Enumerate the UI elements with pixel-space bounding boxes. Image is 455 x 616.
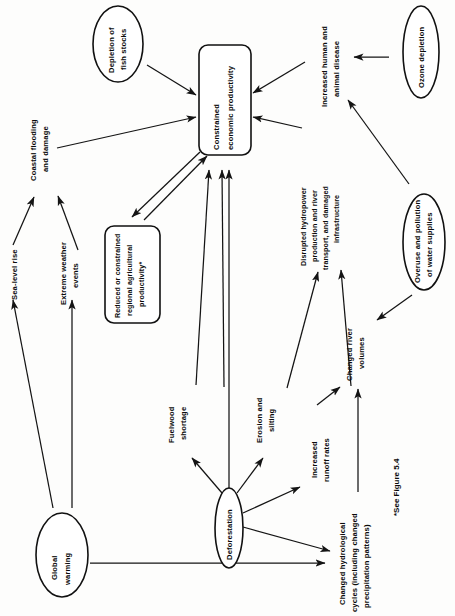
node-changed-river-volumes[interactable]: Changed river volumes (345, 328, 366, 381)
edge-runoff-rates-to-river-volumes (317, 387, 340, 405)
node-label-depletion-of-fish-stocks-line1: Depletion of (107, 27, 116, 73)
figure-footnote-text: *See Figure 5.4 (392, 458, 401, 516)
figure-footnote: *See Figure 5.4 (392, 458, 401, 516)
node-label-extreme-weather-line2: events (71, 263, 80, 288)
node-reduced-regional-agricultural-productivity[interactable]: Reduced or constrained regional agricult… (105, 226, 160, 323)
node-label-sea-level-rise-line1: Sea-level rise (10, 249, 19, 300)
edge-global-warming-to-sea-level-rise (13, 300, 53, 508)
node-label-overuse-water-supplies-line2: of water supplies (425, 212, 434, 277)
edge-agricultural-productivity-to-economic-productivity (144, 156, 207, 220)
edge-disease-to-economic-productivity (253, 62, 305, 93)
edge-deforestation-to-runoff-rates (243, 487, 300, 513)
node-label-hydropower-line1: Disrupted hydropower (300, 187, 308, 266)
node-label-agricultural-productivity-line3: productivity* (138, 262, 146, 307)
causal-diagram-figure: Constrained economic productivity Deplet… (0, 0, 455, 616)
node-label-disease-line1: Increased human and (320, 26, 329, 107)
node-shape-overuse-and-pollution-of-water-supplies (403, 194, 445, 290)
edge-water-supplies-to-disease (348, 100, 409, 184)
node-label-fuelwood-shortage-line2: shortage (179, 407, 188, 440)
node-label-constrained-economic-productivity-line2: economic productivity (226, 65, 235, 150)
node-label-coastal-flooding-line2: and damage (41, 126, 50, 172)
node-coastal-flooding-and-damage[interactable]: Coastal flooding and damage (29, 119, 50, 181)
node-label-changed-river-volumes-line1: Changed river (345, 328, 354, 381)
edge-coastal-flooding-to-economic-productivity (57, 117, 196, 148)
edge-sea-level-rise-to-coastal-flooding (13, 197, 34, 245)
node-label-erosion-silting-line2: silting (267, 408, 276, 432)
node-ozone-depletion[interactable]: Ozone depletion (403, 6, 439, 98)
node-extreme-weather-events[interactable]: Extreme weather events (59, 242, 80, 305)
edge-erosion-silting-to-hydropower (287, 272, 318, 388)
node-label-erosion-silting-line1: Erosion and (255, 397, 264, 443)
edge-deforestation-to-hydrological-cycles (243, 527, 330, 551)
node-label-agricultural-productivity-line2: regional agricultural (126, 245, 134, 316)
node-erosion-and-silting[interactable]: Erosion and silting (255, 397, 276, 443)
node-label-global-warming-line2: warming (63, 553, 72, 586)
node-label-fuelwood-shortage-line1: Fuelwood (167, 406, 176, 443)
node-label-deforestation-line1: Deforestation (225, 509, 234, 560)
node-fuelwood-shortage[interactable]: Fuelwood shortage (167, 406, 188, 443)
node-label-hydrological-cycles-line3: precipitation patterns) (362, 524, 371, 608)
node-sea-level-rise[interactable]: Sea-level rise (10, 249, 19, 300)
node-label-runoff-rates-line2: runoff rates (322, 438, 331, 482)
node-deforestation[interactable]: Deforestation (215, 488, 243, 568)
node-layer: Constrained economic productivity Deplet… (10, 6, 445, 612)
node-constrained-economic-productivity[interactable]: Constrained economic productivity (199, 45, 251, 155)
node-label-hydropower-line2: production and river (311, 190, 319, 262)
node-label-agricultural-productivity-line1: Reduced or constrained (114, 233, 122, 318)
node-increased-runoff-rates[interactable]: Increased runoff rates (310, 438, 331, 482)
node-shape-constrained-economic-productivity (199, 45, 251, 155)
edge-deforestation-to-fuelwood-shortage (192, 458, 222, 493)
node-changed-hydrological-cycles[interactable]: Changed hydrological cycles (including c… (338, 513, 371, 612)
node-label-coastal-flooding-line1: Coastal flooding (29, 119, 38, 181)
node-disrupted-hydropower[interactable]: Disrupted hydropower production and rive… (300, 186, 341, 270)
edge-deforestation-to-erosion-silting (237, 458, 263, 493)
node-label-extreme-weather-line1: Extreme weather (59, 242, 68, 305)
node-label-hydropower-line4: infrastructure (333, 195, 341, 243)
edge-extreme-weather-to-coastal-flooding (58, 196, 78, 250)
node-increased-human-and-animal-disease[interactable]: Increased human and animal disease (320, 26, 341, 107)
edge-hydropower-to-economic-productivity (253, 117, 302, 128)
edge-erosion-silting-to-economic-productivity (222, 170, 224, 387)
node-shape-depletion-of-fish-stocks (93, 6, 143, 82)
node-label-ozone-depletion-line1: Ozone depletion (417, 26, 426, 88)
edge-fuelwood-shortage-to-economic-productivity (196, 170, 209, 385)
node-label-global-warming-line1: Global (50, 555, 59, 580)
node-label-hydropower-line3: transport, and damaged (322, 186, 330, 270)
node-label-changed-river-volumes-line2: volumes (357, 337, 366, 369)
node-depletion-of-fish-stocks[interactable]: Depletion of fish stocks (93, 6, 143, 82)
edge-fish-stocks-to-economic-productivity (147, 65, 196, 95)
node-label-disease-line2: animal disease (332, 41, 341, 97)
node-overuse-and-pollution-of-water-supplies[interactable]: Overuse and pollution of water supplies (403, 194, 445, 290)
node-label-runoff-rates-line1: Increased (310, 441, 319, 478)
node-global-warming[interactable]: Global warming (36, 513, 88, 597)
node-label-constrained-economic-productivity-line1: Constrained (212, 104, 221, 150)
causal-diagram-canvas: Constrained economic productivity Deplet… (0, 0, 455, 616)
edge-water-supplies-to-river-volumes (377, 295, 412, 320)
edge-economic-productivity-to-agricultural-productivity (132, 152, 200, 217)
node-label-depletion-of-fish-stocks-line2: fish stocks (119, 29, 128, 70)
node-shape-global-warming (36, 513, 88, 597)
node-label-overuse-water-supplies-line1: Overuse and pollution (413, 199, 422, 283)
node-label-hydrological-cycles-line1: Changed hydrological (338, 522, 347, 605)
node-label-hydrological-cycles-line2: cycles (including changed (350, 513, 359, 612)
